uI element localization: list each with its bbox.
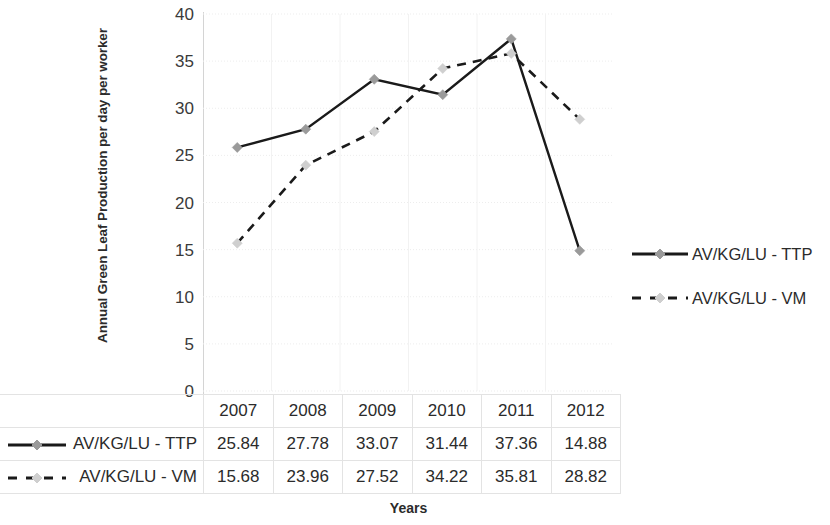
table-row: AV/KG/LU - VM15.6823.9627.5234.2235.8128… [0, 461, 621, 494]
table-cell: 23.96 [273, 461, 343, 494]
table-cell: 31.44 [412, 428, 482, 461]
table-row-label: AV/KG/LU - VM [0, 461, 204, 494]
y-axis-tick-25: 25 [140, 147, 194, 164]
table-cell: 25.84 [204, 428, 274, 461]
data-table-grid: 200720082009201020112012 AV/KG/LU - TTP2… [0, 394, 621, 494]
y-axis-tick-35: 35 [140, 53, 194, 70]
legend-item-1[interactable]: AV/KG/LU - VM [632, 276, 828, 320]
table-header-2012: 2012 [551, 395, 621, 428]
table-header-2009: 2009 [343, 395, 413, 428]
table-header-row: 200720082009201020112012 [0, 395, 621, 428]
table-header-2008: 2008 [273, 395, 343, 428]
y-axis-tick-10: 10 [140, 288, 194, 305]
y-axis-tick-40: 40 [140, 6, 194, 23]
y-axis-tick-20: 20 [140, 194, 194, 211]
table-row: AV/KG/LU - TTP25.8427.7833.0731.4437.361… [0, 428, 621, 461]
table-header-2010: 2010 [412, 395, 482, 428]
legend-label: AV/KG/LU - TTP [688, 245, 812, 264]
data-point-0-0 [232, 142, 242, 152]
table-cell: 14.88 [551, 428, 621, 461]
legend-key-1 [632, 290, 688, 306]
y-axis-tick-15: 15 [140, 241, 194, 258]
table-cell: 34.22 [412, 461, 482, 494]
data-table: 200720082009201020112012 AV/KG/LU - TTP2… [0, 394, 614, 490]
table-cell: 28.82 [551, 461, 621, 494]
table-cell: 27.52 [343, 461, 413, 494]
legend-key-0 [632, 246, 688, 262]
chart-legend: AV/KG/LU - TTPAV/KG/LU - VM [632, 232, 828, 320]
legend-key-icon-1 [632, 290, 688, 306]
x-axis-title: Years [203, 500, 614, 516]
legend-key-icon-0 [632, 246, 688, 262]
y-axis-title: Annual Green Leaf Production per day per… [95, 0, 110, 376]
legend-item-0[interactable]: AV/KG/LU - TTP [632, 232, 828, 276]
table-row-key-icon [8, 437, 66, 451]
y-axis-tick-5: 5 [140, 335, 194, 352]
table-cell: 27.78 [273, 428, 343, 461]
table-row-label-text: AV/KG/LU - TTP [73, 434, 197, 453]
table-header-2011: 2011 [482, 395, 552, 428]
table-body: AV/KG/LU - TTP25.8427.7833.0731.4437.361… [0, 428, 621, 494]
table-corner-cell [0, 395, 204, 428]
plot-area [203, 14, 614, 391]
data-point-0-5 [575, 246, 585, 256]
table-cell: 33.07 [343, 428, 413, 461]
plot-svg [203, 14, 614, 391]
legend-key-1 [8, 471, 66, 485]
data-point-1-3 [438, 63, 448, 73]
table-header-2007: 2007 [204, 395, 274, 428]
table-cell: 37.36 [482, 428, 552, 461]
table-cell: 15.68 [204, 461, 274, 494]
y-axis-tick-30: 30 [140, 100, 194, 117]
legend-key-0 [8, 438, 66, 452]
table-cell: 35.81 [482, 461, 552, 494]
table-row-label-text: AV/KG/LU - VM [79, 467, 197, 486]
data-point-1-2 [369, 127, 379, 137]
table-row-label: AV/KG/LU - TTP [0, 428, 204, 461]
y-axis-tick-labels: 0510152025303540 [140, 0, 194, 400]
legend-label: AV/KG/LU - VM [688, 289, 806, 308]
table-row-key-icon [8, 470, 66, 484]
